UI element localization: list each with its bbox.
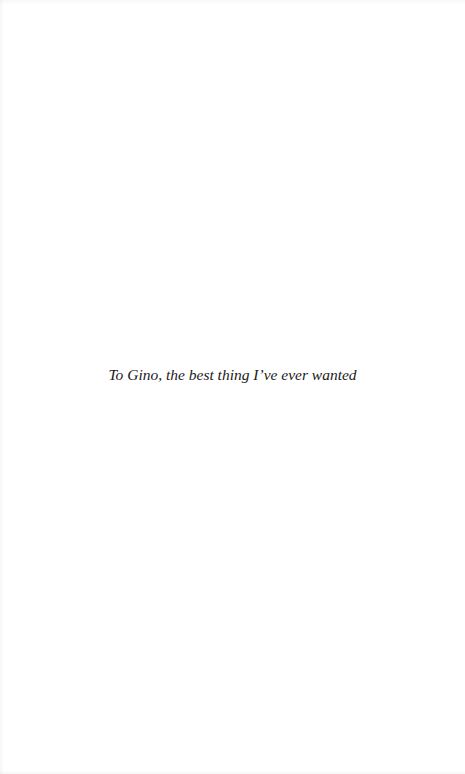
page-edge-shading-top <box>0 0 465 4</box>
page-edge-shading-bottom <box>0 770 465 774</box>
page-edge-shading-left <box>0 0 4 774</box>
dedication-text: To Gino, the best thing I’ve ever wanted <box>0 365 465 385</box>
book-page: To Gino, the best thing I’ve ever wanted <box>0 0 465 774</box>
